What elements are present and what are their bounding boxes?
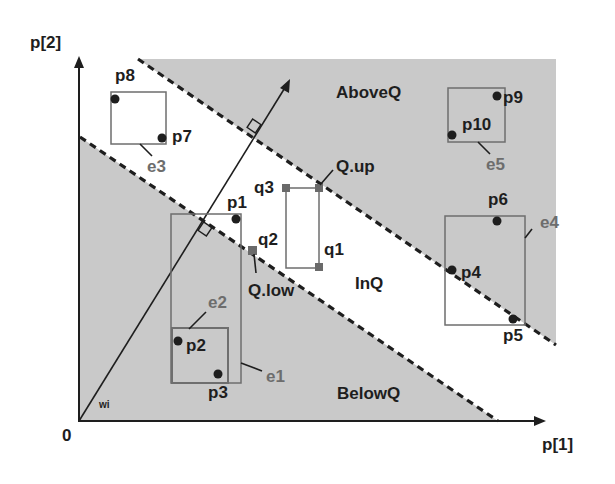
point-p9[interactable] xyxy=(493,92,502,101)
point-p10-label: p10 xyxy=(462,115,491,134)
point-p3-label: p3 xyxy=(208,383,228,402)
point-p4-label: p4 xyxy=(461,263,481,282)
point-p6[interactable] xyxy=(493,217,502,226)
diagram-canvas: p[2] p[1] 0 wi AboveQ InQ BelowQ Q.up Q.… xyxy=(0,0,615,484)
y-axis-arrow-icon xyxy=(74,56,84,68)
point-p2-label: p2 xyxy=(186,336,206,355)
query-corner-q1-label: q1 xyxy=(324,240,344,259)
point-p1-label: p1 xyxy=(227,193,247,212)
point-p8-label: p8 xyxy=(115,66,135,85)
point-p2[interactable] xyxy=(174,337,183,346)
point-p4[interactable] xyxy=(448,266,457,275)
point-p7[interactable] xyxy=(158,134,167,143)
entry-e5-label: e5 xyxy=(486,155,505,174)
origin-label: 0 xyxy=(62,426,71,445)
region-belowq-label: BelowQ xyxy=(337,384,400,403)
query-corner-q1-marker xyxy=(315,263,323,271)
query-rectangle[interactable] xyxy=(286,188,319,268)
entry-e1-label: e1 xyxy=(266,367,285,386)
entry-e4-label: e4 xyxy=(540,213,559,232)
point-p3[interactable] xyxy=(214,370,223,379)
point-p10[interactable] xyxy=(448,131,457,140)
leader-e3 xyxy=(140,144,152,156)
point-p5[interactable] xyxy=(509,315,518,324)
point-p9-label: p9 xyxy=(503,88,523,107)
query-corner-qup-marker xyxy=(315,184,323,192)
wi-vector-label: wi xyxy=(98,399,110,410)
entry-e3-label: e3 xyxy=(147,157,166,176)
point-p1[interactable] xyxy=(232,215,241,224)
query-up-label: Q.up xyxy=(336,157,375,176)
region-aboveq-label: AboveQ xyxy=(336,83,401,102)
x-axis-arrow-icon xyxy=(534,416,546,426)
point-p5-label: p5 xyxy=(503,326,523,345)
query-corner-q2-label: q2 xyxy=(258,230,278,249)
point-p7-label: p7 xyxy=(172,127,192,146)
y-axis-label: p[2] xyxy=(30,33,61,52)
query-corner-q3-marker xyxy=(282,184,290,192)
query-corner-q3-label: q3 xyxy=(254,178,274,197)
query-corner-q2-marker xyxy=(248,246,257,255)
x-axis-label: p[1] xyxy=(542,435,573,454)
point-p6-label: p6 xyxy=(488,190,508,209)
region-inq-label: InQ xyxy=(355,274,383,293)
query-low-label: Q.low xyxy=(248,281,295,300)
entry-e2-label: e2 xyxy=(208,293,227,312)
point-p8[interactable] xyxy=(111,95,120,104)
